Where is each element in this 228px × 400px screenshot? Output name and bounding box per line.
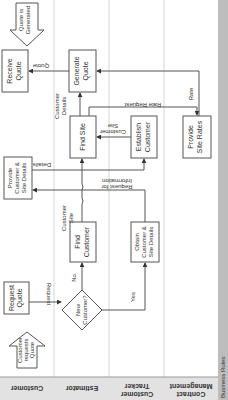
svg-text:Quote: Quote <box>15 61 23 80</box>
start-event-customer-requests-quote: Customer requests Quote <box>9 332 45 368</box>
edge-details: Details <box>32 159 144 170</box>
svg-text:Quote: Quote <box>16 288 24 307</box>
svg-text:Provide: Provide <box>7 167 13 188</box>
svg-text:Receive: Receive <box>6 58 13 83</box>
svg-text:Management: Management <box>169 382 212 390</box>
svg-text:Yes: Yes <box>130 292 136 302</box>
svg-text:Site: Site <box>68 212 74 223</box>
node-establish-customer: Establish Customer <box>131 116 157 158</box>
node-obtain-customer-site-details: Obtain Customer & Site Details <box>131 222 159 262</box>
node-request-quote: Request Quote <box>4 282 29 314</box>
svg-text:No: No <box>71 274 77 282</box>
svg-text:Details: Details <box>33 162 51 168</box>
svg-text:Rate: Rate <box>188 87 194 100</box>
svg-text:Rate Request: Rate Request <box>124 102 161 108</box>
svg-text:Establish: Establish <box>135 123 142 152</box>
svg-text:Site Details: Site Details <box>148 227 154 257</box>
lane-header-estimator: Estimator <box>66 385 99 392</box>
svg-text:New: New <box>75 303 81 316</box>
svg-text:Customer: Customer <box>54 93 60 119</box>
business-rules-strip <box>218 0 228 400</box>
svg-text:Contract: Contract <box>176 391 205 398</box>
svg-text:Customer: Customer <box>83 226 90 257</box>
svg-text:Site Rates: Site Rates <box>196 120 203 153</box>
svg-text:Customer &: Customer & <box>141 226 147 258</box>
edge-customer-site-2: Customer Site <box>97 123 131 137</box>
node-find-customer: Find Customer <box>70 222 96 262</box>
svg-text:Site Details: Site Details <box>21 163 27 193</box>
edge-no: No <box>71 263 82 290</box>
svg-text:Generated: Generated <box>25 6 31 34</box>
svg-text:Quote is: Quote is <box>18 9 24 31</box>
svg-text:Request: Request <box>8 285 16 311</box>
svg-text:Customer?: Customer? <box>82 295 88 325</box>
lane-header-customer: Customer <box>10 385 43 392</box>
node-provide-site-rates: Provide Site Rates <box>183 116 211 158</box>
edge-request: Request <box>29 283 61 306</box>
node-provide-customer-site-details: Provide Customer & Site Details <box>4 157 32 199</box>
edge-rate: Rate <box>97 71 199 116</box>
svg-text:Customer: Customer <box>144 121 151 152</box>
svg-text:Find Site: Find Site <box>79 123 86 151</box>
node-find-site: Find Site <box>70 116 96 158</box>
business-rules-label: Business Rules: <box>220 355 226 398</box>
svg-text:Quote: Quote <box>29 341 35 358</box>
svg-text:Details: Details <box>61 97 67 115</box>
edge-customer-details: Customer Details <box>54 93 80 119</box>
svg-text:Provide: Provide <box>187 125 194 149</box>
svg-text:Site: Site <box>107 123 118 129</box>
edge-yes: Yes <box>102 263 145 310</box>
svg-text:Generate: Generate <box>73 56 80 85</box>
svg-text:Request: Request <box>46 283 52 306</box>
svg-text:Tracker: Tracker <box>124 383 149 390</box>
svg-text:Obtain: Obtain <box>134 233 140 251</box>
swimlane-diagram: Customer Estimator Customer Tracker Cont… <box>0 0 228 400</box>
svg-text:Quote: Quote <box>32 63 49 69</box>
svg-text:Estimator: Estimator <box>66 385 99 392</box>
svg-text:Customer: Customer <box>10 385 43 392</box>
edge-quote: Quote <box>29 63 69 71</box>
end-event-quote-generated: Quote is Generated <box>10 3 44 46</box>
edge-request-for-information: Request for Information <box>33 178 145 222</box>
svg-text:Quote: Quote <box>82 61 90 80</box>
node-generate-quote: Generate Quote <box>69 50 96 92</box>
svg-text:Customer: Customer <box>61 205 67 231</box>
lane-header-customer-tracker: Customer Tracker <box>120 383 153 398</box>
svg-text:Find: Find <box>74 235 81 249</box>
svg-text:Customer &: Customer & <box>14 162 20 194</box>
decision-new-customer: New Customer? <box>62 290 102 330</box>
svg-text:Customer: Customer <box>120 391 153 398</box>
node-receive-quote: Receive Quote <box>2 50 28 92</box>
svg-text:Information: Information <box>102 178 132 184</box>
edge-rate-request: Rate Request <box>89 102 197 116</box>
